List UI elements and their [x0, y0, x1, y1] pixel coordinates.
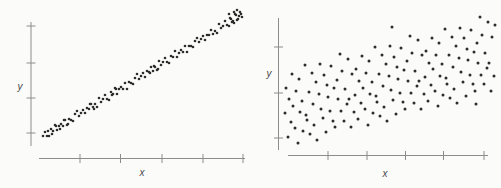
data-point	[325, 131, 328, 134]
data-point	[375, 95, 378, 98]
data-point	[74, 113, 77, 116]
data-point	[152, 70, 155, 73]
data-point	[350, 126, 353, 129]
left-x-axis-label: x	[139, 167, 146, 178]
data-point	[484, 52, 487, 55]
data-point	[459, 27, 462, 30]
data-point	[236, 9, 239, 12]
data-point	[372, 112, 375, 115]
data-point	[52, 130, 55, 133]
data-point	[368, 60, 371, 63]
data-point	[346, 103, 349, 106]
data-point	[444, 28, 447, 31]
data-point	[334, 126, 337, 129]
data-point	[228, 25, 231, 28]
data-point	[98, 97, 101, 100]
data-point	[176, 56, 179, 59]
data-point	[204, 39, 207, 42]
data-point	[233, 11, 236, 14]
data-point	[402, 101, 405, 104]
data-point	[396, 66, 399, 69]
data-point	[224, 20, 227, 23]
data-point	[292, 105, 295, 108]
data-point	[395, 113, 398, 116]
data-point	[383, 106, 386, 109]
data-point	[469, 74, 472, 77]
data-point	[116, 93, 119, 96]
data-point	[470, 29, 473, 32]
data-point	[104, 94, 107, 97]
data-point	[241, 16, 244, 19]
data-point	[301, 100, 304, 103]
data-point	[431, 37, 434, 40]
data-point	[341, 70, 344, 73]
data-point	[378, 73, 381, 76]
data-point	[158, 60, 161, 63]
data-point	[51, 133, 54, 136]
data-point	[390, 89, 393, 92]
data-point	[458, 57, 461, 60]
data-point	[93, 108, 96, 111]
left-points	[42, 9, 244, 138]
data-point	[348, 98, 351, 101]
data-point	[316, 139, 319, 142]
data-point	[439, 75, 442, 78]
data-point	[425, 50, 428, 53]
data-point	[340, 110, 343, 113]
data-point	[115, 88, 118, 91]
data-point	[305, 114, 308, 117]
data-point	[239, 11, 242, 14]
data-point	[42, 135, 45, 138]
data-point	[186, 51, 189, 54]
data-point	[56, 129, 59, 132]
data-point	[178, 52, 181, 55]
data-point	[446, 83, 449, 86]
data-point	[162, 61, 165, 64]
data-point	[222, 25, 225, 28]
data-point	[448, 54, 451, 57]
data-point	[472, 83, 475, 86]
data-point	[330, 65, 333, 68]
data-point	[67, 123, 70, 126]
data-point	[399, 92, 402, 95]
data-point	[344, 88, 347, 91]
data-point	[362, 87, 365, 90]
data-point	[460, 71, 463, 74]
data-point	[354, 94, 357, 97]
data-point	[122, 88, 125, 91]
data-point	[435, 54, 438, 57]
data-point	[409, 35, 412, 38]
data-point	[355, 68, 358, 71]
data-point	[88, 108, 91, 111]
data-point	[477, 62, 480, 65]
data-point	[100, 101, 103, 104]
data-point	[285, 87, 288, 90]
data-point	[134, 77, 137, 80]
left-y-axis	[27, 22, 36, 146]
data-point	[153, 65, 156, 68]
data-point	[312, 103, 315, 106]
data-point	[200, 38, 203, 41]
data-point	[388, 75, 391, 78]
data-point	[180, 49, 183, 52]
data-point	[326, 84, 329, 87]
data-point	[96, 106, 99, 109]
data-point	[453, 88, 456, 91]
data-point	[48, 135, 51, 138]
data-point	[476, 42, 479, 45]
data-point	[184, 45, 187, 48]
data-point	[437, 105, 440, 108]
data-point	[89, 103, 92, 106]
figure-canvas: y x y x	[0, 0, 501, 188]
left-scatter-panel: y x	[17, 9, 246, 178]
data-point	[302, 130, 305, 133]
data-point	[237, 18, 240, 21]
data-point	[333, 87, 336, 90]
data-point	[491, 36, 494, 39]
data-point	[386, 120, 389, 123]
data-point	[298, 78, 301, 81]
data-point	[430, 84, 433, 87]
data-point	[315, 81, 318, 84]
data-point	[400, 47, 403, 50]
data-point	[376, 101, 379, 104]
